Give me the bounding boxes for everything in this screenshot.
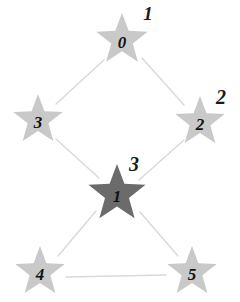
node-annotation-label: 1 bbox=[143, 3, 153, 24]
graph-edge bbox=[142, 58, 184, 105]
graph-node-3[interactable]: 3 bbox=[13, 94, 62, 141]
graph-edge bbox=[139, 140, 184, 180]
graph-edge bbox=[140, 212, 178, 256]
graph-edge bbox=[66, 275, 166, 277]
graph-edge bbox=[56, 60, 104, 104]
node-id-label: 4 bbox=[35, 265, 45, 284]
node-id-label: 1 bbox=[113, 187, 122, 206]
graph-node-0[interactable]: 0 bbox=[96, 13, 147, 62]
node-id-label: 2 bbox=[195, 115, 205, 134]
diagram-canvas: 032145 123 bbox=[0, 0, 240, 302]
node-id-label: 3 bbox=[33, 113, 43, 132]
edges-group bbox=[56, 58, 184, 277]
outer-labels-group: 123 bbox=[128, 3, 226, 174]
star-graph: 032145 123 bbox=[0, 0, 240, 302]
graph-node-4[interactable]: 4 bbox=[15, 246, 64, 293]
node-id-label: 5 bbox=[188, 265, 197, 284]
node-id-label: 0 bbox=[118, 33, 127, 52]
node-annotation-label: 2 bbox=[215, 86, 226, 108]
graph-edge bbox=[56, 139, 99, 178]
nodes-group: 032145 bbox=[13, 13, 224, 293]
graph-edge bbox=[58, 211, 96, 256]
node-annotation-label: 3 bbox=[128, 153, 139, 175]
